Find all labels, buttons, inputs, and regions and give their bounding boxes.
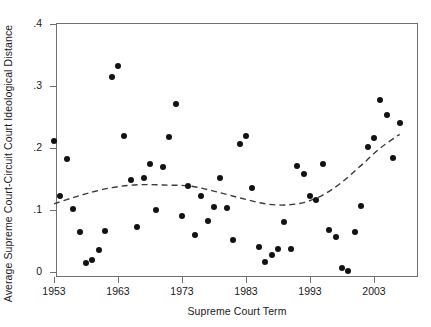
y-axis-label: Average Supreme Court-Circuit Court Ideo… <box>0 0 16 327</box>
data-point <box>77 229 83 235</box>
data-point <box>384 112 390 118</box>
y-tick-label: .1 <box>0 204 50 215</box>
data-point <box>192 232 198 238</box>
data-point <box>160 164 166 170</box>
data-point <box>230 237 236 243</box>
data-point <box>275 246 281 252</box>
data-point <box>365 144 371 150</box>
data-point <box>51 138 57 144</box>
x-tick-label: 1983 <box>216 285 276 297</box>
data-point <box>205 218 211 224</box>
data-point <box>224 205 230 211</box>
data-point <box>243 133 249 139</box>
data-point <box>141 175 147 181</box>
x-tick-mark <box>374 277 375 283</box>
data-point <box>256 244 262 250</box>
x-tick-label: 1993 <box>280 285 340 297</box>
x-tick-label: 1963 <box>88 285 148 297</box>
data-point <box>64 156 70 162</box>
x-tick-label: 1953 <box>24 285 84 297</box>
x-axis-label: Supreme Court Term <box>56 305 418 317</box>
x-tick-label: 1973 <box>152 285 212 297</box>
data-point <box>320 161 326 167</box>
x-tick-mark <box>246 277 247 283</box>
x-tick-label: 2003 <box>344 285 404 297</box>
data-point <box>301 171 307 177</box>
x-tick-mark <box>182 277 183 283</box>
data-point <box>269 252 275 258</box>
data-point <box>237 141 243 147</box>
data-point <box>109 74 115 80</box>
chart-figure: Average Supreme Court-Circuit Court Ideo… <box>0 0 431 327</box>
data-point <box>198 193 204 199</box>
plot-area <box>56 23 418 277</box>
y-tick-label: .2 <box>0 142 50 153</box>
y-tick-label: .4 <box>0 18 50 29</box>
data-point <box>333 234 339 240</box>
data-point <box>134 224 140 230</box>
x-tick-mark <box>310 277 311 283</box>
data-point <box>397 120 403 126</box>
data-point <box>166 134 172 140</box>
trend-line <box>56 23 418 277</box>
x-tick-mark <box>54 277 55 283</box>
x-tick-mark <box>118 277 119 283</box>
data-point <box>173 101 179 107</box>
y-tick-label: .3 <box>0 80 50 91</box>
data-point <box>352 229 358 235</box>
y-tick-label: 0 <box>0 266 50 277</box>
data-point <box>211 204 217 210</box>
data-point <box>288 246 294 252</box>
data-point <box>128 177 134 183</box>
